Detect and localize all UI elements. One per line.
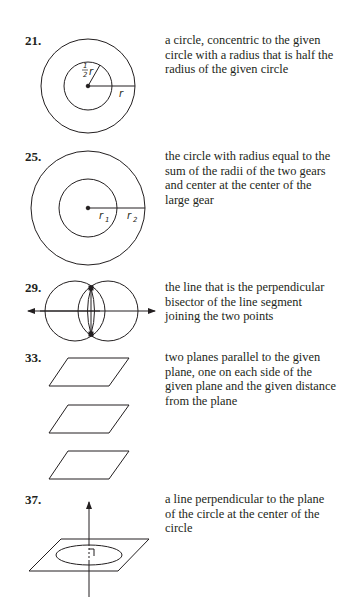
fraction-denominator: 2 — [83, 71, 88, 79]
outer-radius-label: r — [119, 88, 124, 99]
plane-bottom — [49, 451, 129, 479]
inner-radius-label: r — [89, 66, 94, 77]
center-point — [86, 84, 90, 88]
r2-subscript: 2 — [133, 216, 138, 224]
right-angle-mark — [89, 549, 94, 556]
figure-33-three-parallel-planes — [49, 358, 129, 479]
point-top — [89, 286, 93, 290]
center-point — [86, 206, 90, 210]
plane-top — [49, 358, 129, 386]
figure-37-perpendicular-line-to-plane — [29, 502, 149, 597]
figure-25-concentric-circles — [31, 151, 145, 265]
fraction-numerator: 1 — [83, 62, 87, 70]
figures: 1 2 r r r 1 r 2 — [0, 0, 341, 597]
figure-29-perpendicular-bisector — [28, 281, 155, 341]
r1-subscript: 1 — [105, 216, 109, 224]
plane-middle — [49, 405, 129, 433]
r2-label: r — [127, 210, 132, 221]
point-bottom — [89, 332, 93, 336]
r1-label: r — [99, 210, 104, 221]
figure-21-concentric-circles — [41, 39, 135, 133]
